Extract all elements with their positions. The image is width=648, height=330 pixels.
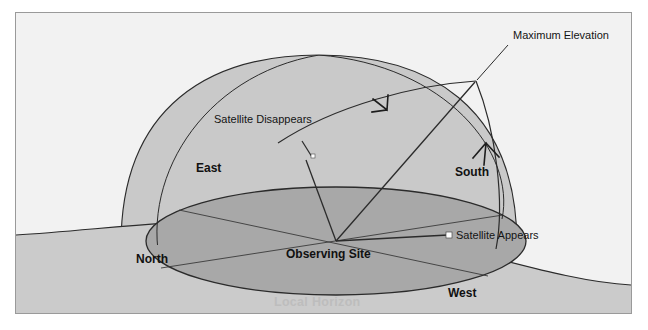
label-maximum-elevation: Maximum Elevation [513, 29, 609, 41]
label-local-horizon: Local Horizon [274, 295, 361, 309]
label-west: West [448, 286, 476, 300]
label-observing-site: Observing Site [286, 247, 371, 261]
label-satellite-appears: Satellite Appears [456, 229, 539, 241]
diagram-frame: Maximum Elevation Satellite Disappears S… [15, 12, 632, 314]
label-east: East [196, 161, 221, 175]
label-south: South [455, 165, 489, 179]
satellite-pass-diagram: Maximum Elevation Satellite Disappears S… [16, 13, 631, 313]
label-satellite-disappears: Satellite Disappears [214, 113, 312, 125]
caption-strip [16, 320, 436, 329]
satellite-disappears-marker [311, 154, 315, 158]
satellite-appears-marker [446, 232, 452, 238]
label-north: North [136, 252, 168, 266]
figure-page: Maximum Elevation Satellite Disappears S… [0, 0, 648, 330]
